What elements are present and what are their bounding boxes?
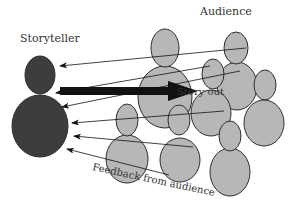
audience-head [116,104,138,136]
storyteller-head [25,56,55,94]
audience-label: Audience [199,5,252,18]
audience-head [202,59,224,89]
audience-head [151,29,179,67]
audience-head [254,70,276,100]
audience-body [244,100,284,146]
audience-head [219,121,241,151]
storyteller-figure [12,56,68,157]
storyteller-label: Storyteller [20,32,81,45]
audience-head [168,105,190,135]
storytelling-diagram: Storyteller Audience Story out Feedback … [0,0,300,204]
storyteller-body [12,95,68,157]
story-out-label: Story out [177,86,224,97]
audience-body [210,148,250,196]
